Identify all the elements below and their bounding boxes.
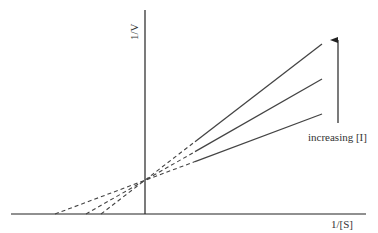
data-line-2 [195, 79, 322, 152]
data-line-1 [195, 114, 322, 162]
extrapolated-line-1 [55, 162, 195, 214]
plot-canvas [0, 0, 378, 233]
extrapolated-line-2 [86, 152, 195, 214]
arrow-annotation: increasing [I] [308, 131, 367, 143]
y-axis-label: 1/V [128, 24, 140, 41]
data-line-3 [195, 44, 322, 142]
x-axis-label: 1/[S] [331, 218, 353, 230]
extrapolated-line-3 [101, 142, 195, 214]
